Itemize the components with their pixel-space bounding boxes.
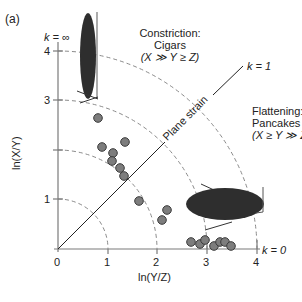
data-point bbox=[227, 242, 236, 251]
data-point bbox=[109, 149, 118, 158]
k-zero-label: k = 0 bbox=[262, 244, 286, 256]
data-point bbox=[158, 216, 167, 225]
constriction-title: Constriction: bbox=[132, 27, 208, 39]
panel-label: (a) bbox=[5, 13, 20, 25]
x-tick-3: 3 bbox=[203, 256, 209, 268]
constriction-label: Constriction: Cigars (X ≫ Y ≥ Z) bbox=[132, 27, 208, 63]
y-axis-label: ln(X/Y) bbox=[10, 136, 22, 170]
constriction-relation: (X ≫ Y ≥ Z) bbox=[132, 51, 208, 63]
y-tick-3: 3 bbox=[44, 94, 50, 106]
k-infinity-label: k = ∞ bbox=[44, 31, 70, 43]
data-point bbox=[187, 238, 196, 247]
flattening-relation: (X ≥ Y ≫ Z) bbox=[252, 129, 302, 141]
cigar-ellipse-icon bbox=[77, 12, 98, 103]
flattening-label: Flattening: Pancakes (X ≥ Y ≫ Z) bbox=[252, 105, 302, 141]
data-point bbox=[116, 164, 125, 173]
data-point bbox=[120, 172, 129, 181]
data-point bbox=[201, 236, 210, 245]
data-point bbox=[163, 206, 172, 215]
constriction-subtitle: Cigars bbox=[132, 39, 208, 51]
flattening-title: Flattening: bbox=[252, 105, 302, 117]
flattening-subtitle: Pancakes bbox=[252, 117, 302, 129]
x-tick-2: 2 bbox=[153, 256, 159, 268]
k-one-label: k = 1 bbox=[247, 60, 271, 72]
y-tick-4: 4 bbox=[44, 45, 50, 57]
data-point bbox=[94, 114, 103, 123]
data-point bbox=[108, 157, 117, 166]
x-tick-4: 4 bbox=[253, 256, 259, 268]
x-tick-1: 1 bbox=[104, 256, 110, 268]
data-point bbox=[121, 138, 130, 147]
data-point bbox=[135, 197, 144, 206]
x-axis-label: ln(Y/Z) bbox=[138, 271, 171, 283]
data-point bbox=[98, 143, 107, 152]
y-tick-1: 1 bbox=[44, 193, 50, 205]
pancake-ellipse-icon bbox=[186, 184, 264, 230]
x-tick-0: 0 bbox=[54, 256, 60, 268]
